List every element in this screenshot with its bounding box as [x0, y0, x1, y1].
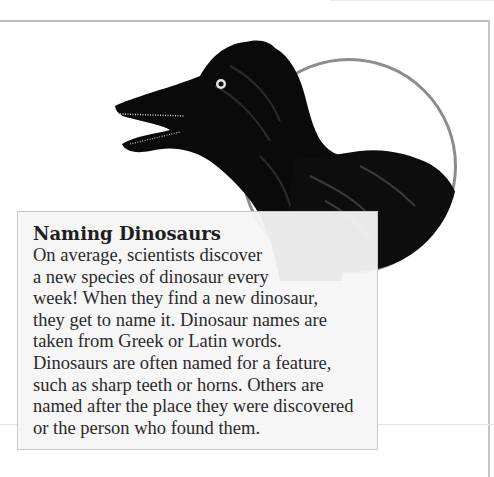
body-line: such as sharp teeth or horns. Others are: [33, 375, 363, 397]
body-line: they get to name it. Dinosaur names are: [33, 310, 363, 332]
page-frame-top-border: [0, 20, 490, 22]
body-line: Dinosaurs are often named for a feature,: [33, 353, 363, 375]
body-line: taken from Greek or Latin words.: [33, 331, 363, 353]
body-line: named after the place they were discover…: [33, 396, 363, 418]
sidebar-box-title: Naming Dinosaurs: [33, 223, 363, 245]
sidebar-box-body: On average, scientists discover a new sp…: [33, 245, 363, 439]
page-frame-right-border: [488, 20, 490, 477]
faint-top-rule: [330, 0, 494, 1]
body-line: or the person who found them.: [33, 418, 363, 440]
naming-dinosaurs-sidebar-box: Naming Dinosaurs On average, scientists …: [17, 211, 378, 450]
body-line: week! When they find a new dinosaur,: [33, 288, 363, 310]
body-line: On average, scientists discover: [33, 245, 363, 267]
body-line: a new species of dinosaur every: [33, 267, 363, 289]
